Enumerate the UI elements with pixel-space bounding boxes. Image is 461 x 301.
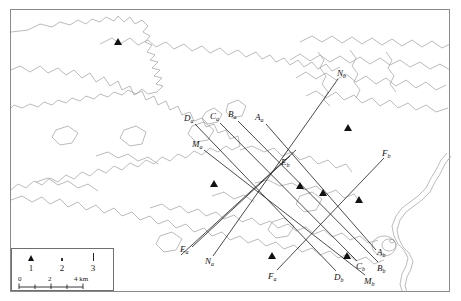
scale-tick-label-4: 4 km xyxy=(74,275,88,283)
label-Db: Db xyxy=(333,272,344,283)
label-Ca: Ca xyxy=(210,111,219,122)
label-Ba: Ba xyxy=(228,109,237,120)
station-marker xyxy=(114,38,122,45)
transect-line-F xyxy=(277,158,384,270)
label-Ea: Ea xyxy=(179,244,189,255)
station-markers xyxy=(114,38,363,259)
label-Cb: Cb xyxy=(356,261,365,272)
label-Bb: Bb xyxy=(377,263,386,274)
label-Fb: Fb xyxy=(381,148,391,159)
label-Na: Na xyxy=(204,256,214,267)
label-Nb: Nb xyxy=(336,68,346,79)
station-marker xyxy=(210,180,218,187)
transect-line-N xyxy=(213,79,338,256)
label-Ma: Ma xyxy=(191,139,203,150)
legend-square-icon xyxy=(55,256,69,261)
transect-lines xyxy=(181,79,384,275)
label-Aa: Aa xyxy=(254,112,264,123)
legend-line-icon xyxy=(86,253,100,261)
label-Da: Da xyxy=(183,113,194,124)
transect-line-C xyxy=(220,123,357,261)
scale-tick-label-2: 2 xyxy=(48,275,52,283)
legend-number-3: 3 xyxy=(86,263,100,273)
station-marker xyxy=(296,182,304,189)
label-Eb: Eb xyxy=(280,157,290,168)
figure-root: Da Ca Ba Aa Ma Nb Fb Eb Ea Na Fa Db Mb C… xyxy=(0,0,461,301)
transect-line-E2 xyxy=(181,150,296,255)
legend-triangle-icon xyxy=(24,254,38,261)
scale-bar xyxy=(18,283,90,290)
scale-tick-label-0: 0 xyxy=(18,275,22,283)
legend-number-2: 2 xyxy=(55,263,69,273)
transect-label-group: Da Ca Ba Aa Ma Nb Fb Eb Ea Na Fa Db Mb C… xyxy=(179,68,391,287)
label-Mb: Mb xyxy=(363,276,375,287)
station-marker xyxy=(268,252,276,259)
label-Fa: Fa xyxy=(267,271,277,282)
label-Ab: Ab xyxy=(376,247,386,258)
station-marker xyxy=(344,124,352,131)
legend-number-1: 1 xyxy=(24,263,38,273)
legend-box: 1 2 3 0 2 4 km xyxy=(11,248,114,291)
transect-line-E xyxy=(192,156,290,247)
